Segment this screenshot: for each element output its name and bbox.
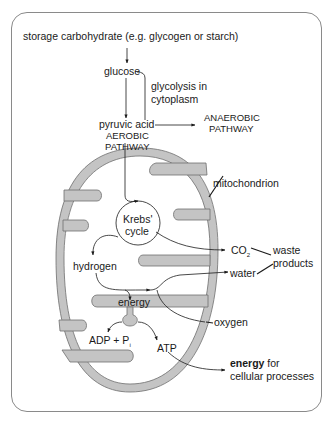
label-aerobic-2: PATHWAY	[105, 141, 150, 152]
label-products: products	[273, 257, 313, 269]
label-oxygen: oxygen	[214, 316, 248, 328]
label-pyruvic-acid: pyruvic acid	[99, 118, 155, 130]
label-waste: waste	[272, 244, 301, 256]
label-energy-for: energy for	[230, 357, 280, 369]
label-energy: energy	[118, 296, 151, 308]
label-aerobic-1: AEROBIC	[106, 130, 149, 141]
label-glucose: glucose	[104, 65, 140, 77]
respiration-diagram: storage carbohydrate (e.g. glycogen or s…	[0, 0, 333, 421]
label-anaerobic-2: PATHWAY	[209, 123, 254, 134]
label-water: water	[229, 267, 256, 279]
label-anaerobic-1: ANAEROBIC	[204, 112, 260, 123]
label-atp: ATP	[157, 342, 177, 354]
label-cellular-processes: cellular processes	[230, 370, 314, 382]
label-adp-pi: ADP + Pi	[89, 334, 131, 348]
label-krebs-1: Krebs'	[123, 213, 152, 225]
label-hydrogen: hydrogen	[73, 260, 117, 272]
label-glycolysis-2: cytoplasm	[151, 93, 199, 105]
label-storage-carbohydrate: storage carbohydrate (e.g. glycogen or s…	[23, 30, 238, 42]
label-mitochondrion: mitochondrion	[213, 177, 279, 189]
label-glycolysis-1: glycolysis in	[151, 80, 207, 92]
label-krebs-2: cycle	[125, 225, 149, 237]
label-co2: CO2	[231, 244, 251, 258]
